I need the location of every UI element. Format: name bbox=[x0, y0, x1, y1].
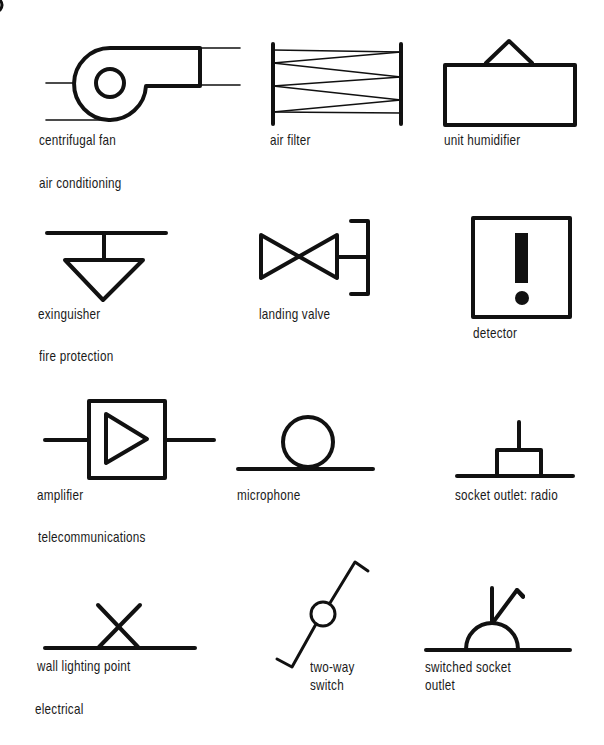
exclamation-dot bbox=[515, 291, 529, 305]
section-title-telecommunications: telecommunications bbox=[38, 528, 146, 545]
switched-socket-outlet-icon bbox=[426, 588, 570, 650]
extinguisher-icon bbox=[47, 233, 166, 300]
two-way-switch-icon bbox=[277, 562, 368, 667]
amplifier-label: amplifier bbox=[37, 486, 83, 503]
socket-outlet-radio-icon bbox=[457, 422, 573, 476]
socket-outlet-radio-label: socket outlet: radio bbox=[455, 486, 558, 503]
two-way-switch-label-line1: two-way bbox=[310, 658, 355, 675]
microphone-icon bbox=[238, 417, 373, 469]
switched-socket-outlet-label-line1: switched socket bbox=[425, 658, 511, 675]
air-filter-icon bbox=[273, 44, 401, 124]
switched-socket-outlet-label-line2: outlet bbox=[425, 676, 455, 693]
detector-label: detector bbox=[473, 324, 517, 341]
unit-humidifier-icon bbox=[445, 41, 575, 125]
section-title-electrical: electrical bbox=[35, 700, 84, 717]
symbols-drawing bbox=[0, 0, 604, 745]
corner-mark bbox=[0, 0, 2, 10]
exclamation-bar bbox=[515, 233, 528, 283]
landing-valve-icon bbox=[261, 221, 368, 294]
wall-lighting-point-label: wall lighting point bbox=[37, 657, 131, 674]
two-way-switch-label-line2: switch bbox=[310, 676, 344, 693]
detector-icon bbox=[473, 218, 570, 317]
symbol-diagram: centrifugal fan air filter unit humidifi… bbox=[0, 0, 604, 745]
landing-valve-label: landing valve bbox=[259, 305, 330, 322]
amplifier-icon bbox=[45, 401, 214, 478]
wall-lighting-point-icon bbox=[45, 605, 195, 648]
microphone-label: microphone bbox=[237, 486, 300, 503]
section-title-fire-protection: fire protection bbox=[39, 347, 113, 364]
unit-humidifier-label: unit humidifier bbox=[444, 131, 520, 148]
air-filter-label: air filter bbox=[270, 131, 311, 148]
extinguisher-label: exinguisher bbox=[38, 305, 100, 322]
section-title-air-conditioning: air conditioning bbox=[39, 174, 121, 191]
centrifugal-fan-label: centrifugal fan bbox=[39, 131, 116, 148]
centrifugal-fan-icon bbox=[46, 48, 240, 120]
